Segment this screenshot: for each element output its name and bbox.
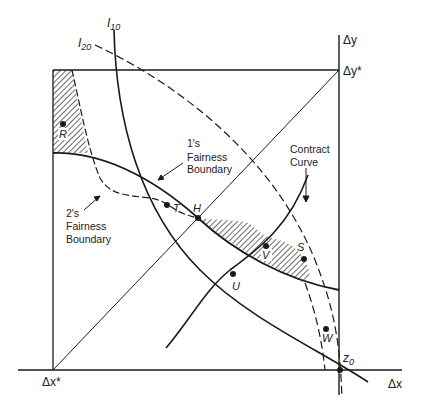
point-z0 [337, 367, 343, 373]
svg-text:W: W [322, 332, 334, 344]
y-axis-label: Δy [343, 33, 357, 47]
y-star-label: Δy* [343, 64, 362, 78]
x-star-label: Δx* [42, 375, 61, 389]
svg-text:H: H [193, 202, 201, 214]
point-u [230, 271, 236, 277]
svg-text:S: S [297, 241, 305, 253]
contract-curve-label: Contract Curve [290, 143, 333, 168]
i10-indifference-curve [114, 30, 368, 382]
point-h [195, 215, 201, 221]
x-axis-label: Δx [388, 377, 402, 391]
point-s [301, 256, 307, 262]
fairness-diagram: I10 I20 Δy Δy* Δx Δx* z0 1's Fairness Bo… [0, 0, 424, 410]
i10-label: I10 [107, 16, 120, 32]
svg-text:R: R [59, 128, 67, 140]
w-region-dashed-curve [305, 283, 325, 370]
twos-boundary-label: 2's Fairness Boundary [66, 207, 112, 245]
svg-text:U: U [232, 280, 240, 292]
twos-fairness-boundary-curve [72, 70, 198, 218]
shaded-region-r [53, 70, 88, 153]
point-t [164, 202, 170, 208]
point-r [60, 121, 66, 127]
i20-label: I20 [78, 36, 91, 52]
z0-label: z0 [342, 351, 354, 367]
ones-boundary-label: 1's Fairness Boundary [187, 137, 233, 175]
